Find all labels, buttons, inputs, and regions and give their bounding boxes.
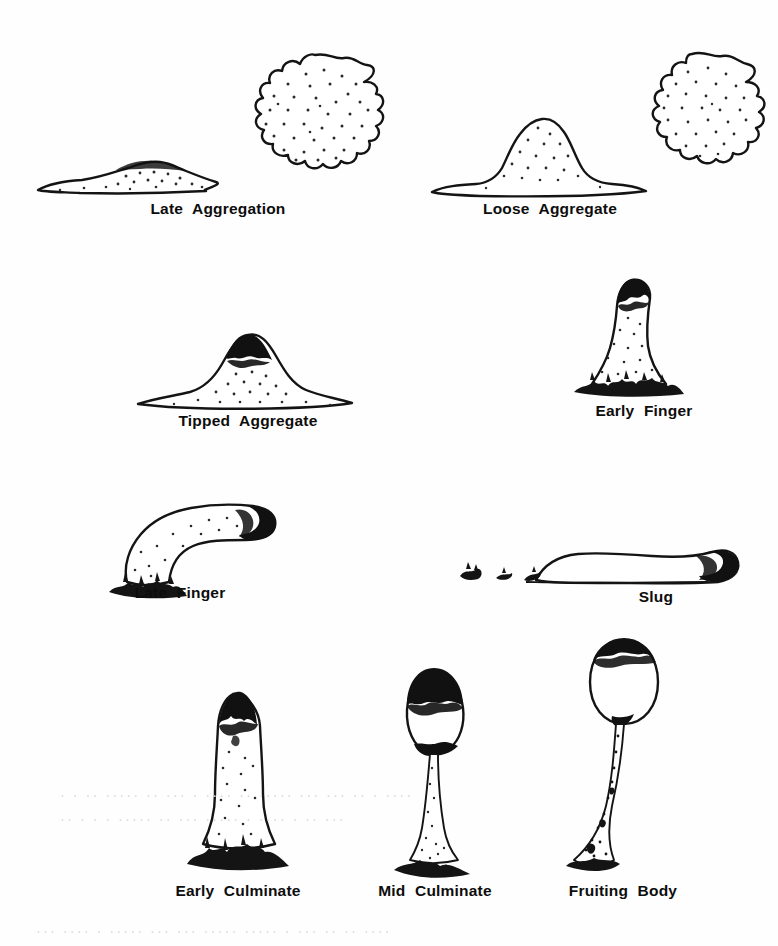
early-finger-drawing	[570, 262, 720, 412]
stage-label-mid-culminate: Mid Culminate	[330, 882, 540, 900]
tipped-aggregate-dark-tip	[226, 334, 272, 360]
stage-label-loose-aggregate: Loose Aggregate	[450, 200, 650, 218]
page-showthrough-line-3: ··· ···· · ····· ··· ··· ····· ····· · ·…	[36, 924, 392, 941]
early-culminate-drawing	[185, 688, 295, 888]
stage-early-finger: Early Finger	[570, 262, 720, 412]
stage-label-slug: Slug	[616, 588, 696, 606]
loose-aggregate-side-view	[432, 119, 646, 196]
stage-tipped-aggregate: Tipped Aggregate	[130, 320, 390, 430]
late-aggregation-top-view	[256, 54, 384, 168]
mid-culminate-drawing	[380, 658, 490, 888]
stage-early-culminate: Early Culminate	[185, 688, 295, 888]
late-aggregation-side-view	[38, 161, 218, 194]
stage-late-aggregation: Late Aggregation	[20, 40, 400, 200]
stage-late-finger: Late Finger	[105, 490, 355, 605]
stage-label-late-aggregation: Late Aggregation	[118, 200, 318, 218]
mid-culminate-dark-cap	[407, 668, 463, 705]
stage-label-fruiting-body: Fruiting Body	[518, 882, 728, 900]
stage-label-tipped-aggregate: Tipped Aggregate	[148, 412, 348, 430]
loose-aggregate-drawing	[420, 40, 770, 200]
late-aggregation-drawing	[20, 40, 400, 200]
stage-slug: Slug	[440, 538, 750, 598]
slug-slime-trail	[460, 562, 541, 581]
stage-fruiting-body: Fruiting Body	[560, 628, 690, 888]
stage-label-early-culminate: Early Culminate	[128, 882, 348, 900]
slug-drawing	[440, 538, 750, 598]
fruiting-body-drawing	[560, 628, 690, 888]
figure-page: Late Aggregation	[0, 0, 778, 946]
stage-mid-culminate: Mid Culminate	[380, 658, 490, 888]
stage-loose-aggregate: Loose Aggregate	[420, 40, 770, 200]
stage-label-late-finger: Late Finger	[100, 584, 260, 602]
loose-aggregate-top-view	[653, 53, 765, 163]
stage-label-early-finger: Early Finger	[564, 402, 724, 420]
